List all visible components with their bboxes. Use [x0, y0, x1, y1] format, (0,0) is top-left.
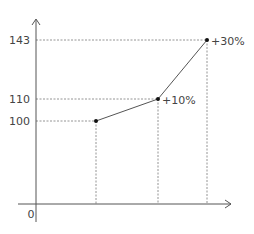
origin-label: 0: [28, 208, 35, 221]
point-3-annotation: +30%: [211, 35, 245, 48]
guide-lines: [36, 40, 207, 204]
y-tick-100: 100: [9, 115, 30, 128]
data-point-1: [94, 119, 98, 123]
y-tick-110: 110: [9, 93, 30, 106]
point-2-annotation: +10%: [162, 94, 196, 107]
chart-canvas: 143 110 100 0 +10% +30%: [0, 0, 254, 234]
data-line: [96, 40, 207, 121]
data-point-3: [205, 38, 209, 42]
y-tick-143: 143: [9, 34, 30, 47]
data-point-2: [156, 97, 160, 101]
